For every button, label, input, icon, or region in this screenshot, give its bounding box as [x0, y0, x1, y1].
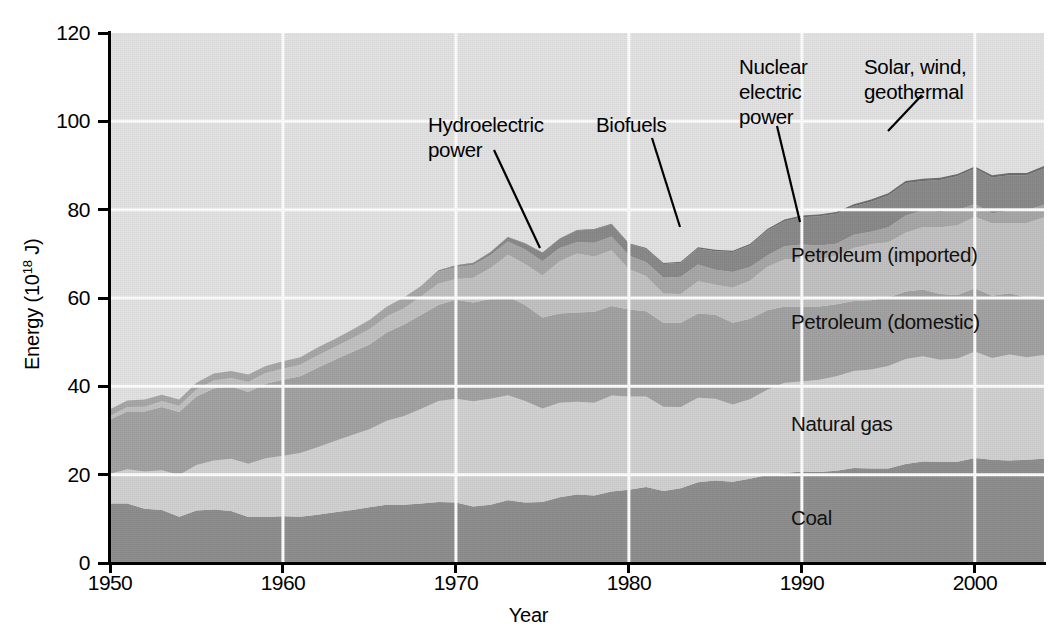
x-tick-label: 1980: [589, 572, 669, 594]
x-tick-label: 1990: [762, 572, 842, 594]
y-tick-label: 100: [38, 110, 90, 131]
y-tick-mark: [98, 120, 110, 123]
annotation-solar-wind-geothermal: Solar, wind, geothermal: [864, 54, 966, 104]
y-tick-mark: [98, 32, 110, 35]
annotation-biofuels: Biofuels: [596, 112, 667, 137]
y-tick-mark: [98, 297, 110, 300]
y-tick-label: 80: [38, 199, 90, 220]
plot-area: [110, 33, 1044, 563]
y-axis-title-exponent: 18: [20, 260, 35, 274]
y-tick-label: 60: [38, 287, 90, 308]
x-tick-label: 1970: [416, 572, 496, 594]
annotation-nuclear-electric-power: Nuclear electric power: [739, 54, 808, 129]
y-tick-mark: [98, 473, 110, 476]
y-axis-title-suffix: J): [21, 239, 43, 261]
annotation-coal: Coal: [791, 506, 832, 530]
gridlines: [110, 33, 1044, 563]
x-tick-label: 1960: [243, 572, 323, 594]
y-tick-label: 40: [38, 375, 90, 396]
annotation-hydroelectric-power: Hydroelectric power: [428, 112, 544, 162]
y-tick-label: 0: [38, 552, 90, 573]
chart-figure: result of production and consumption of …: [0, 0, 1057, 643]
annotation-petroleum-imported: Petroleum (imported): [791, 243, 978, 267]
annotation-petroleum-domestic: Petroleum (domestic): [791, 310, 980, 334]
x-tick-label: 1950: [70, 572, 150, 594]
y-tick-mark: [98, 208, 110, 211]
y-tick-mark: [98, 385, 110, 388]
y-tick-label: 120: [38, 22, 90, 43]
annotation-natural-gas: Natural gas: [791, 412, 893, 436]
x-axis-title: Year: [0, 604, 1057, 627]
x-axis-line: [108, 562, 1046, 565]
y-tick-label: 20: [38, 464, 90, 485]
x-tick-label: 2000: [935, 572, 1015, 594]
